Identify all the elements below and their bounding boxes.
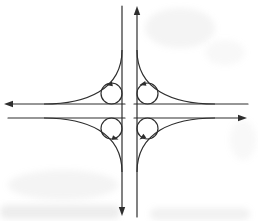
northwest-ramp <box>44 50 122 104</box>
scanned-page <box>0 0 258 221</box>
eastbound-carriageway-east-half-arrowhead <box>238 115 247 121</box>
southeast-loop <box>137 118 158 139</box>
northbound-carriageway-arrowhead <box>134 6 140 15</box>
northwest-loop <box>101 83 122 104</box>
northeast-ramp <box>137 50 215 104</box>
northeast-loop <box>137 83 158 104</box>
southbound-carriageway-arrowhead <box>119 207 125 216</box>
southwest-loop <box>101 118 122 139</box>
westbound-carriageway-west-half-arrowhead <box>4 101 13 107</box>
cloverleaf-interchange-diagram <box>0 0 258 221</box>
southwest-ramp <box>44 118 122 172</box>
southeast-ramp <box>137 118 215 172</box>
